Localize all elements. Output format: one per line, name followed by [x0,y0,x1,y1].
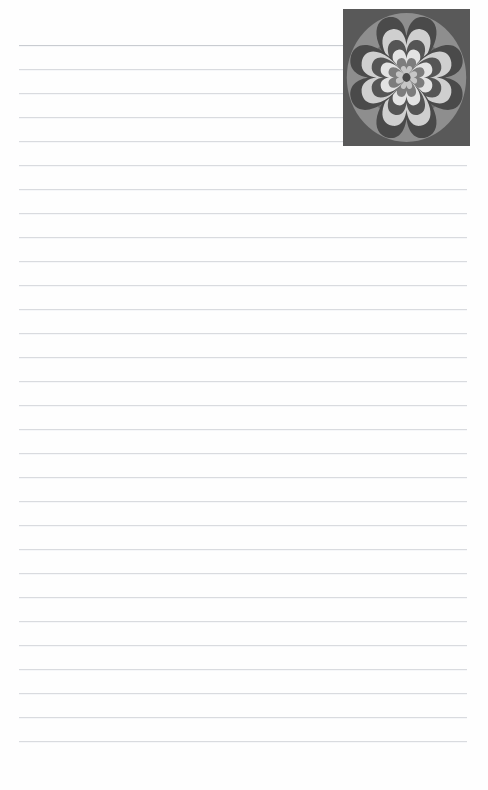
rule-line [19,213,467,214]
rule-line [19,453,467,454]
mandala-center [402,73,410,82]
rule-line [19,693,467,694]
rule-line [19,477,467,478]
rule-line [19,357,467,358]
rule-line [19,501,467,502]
rule-line [19,525,467,526]
heart-mandala-icon [343,9,470,146]
rule-line [19,333,467,334]
decorative-heart-mandala-tile [343,9,470,146]
rule-line [19,429,467,430]
rule-line [19,261,467,262]
rule-line [19,309,467,310]
rule-line [19,405,467,406]
rule-line [19,381,467,382]
rule-line [19,237,467,238]
rule-line [19,669,467,670]
rule-line [19,189,467,190]
rule-line [19,645,467,646]
rule-line [19,717,467,718]
rule-line [19,165,467,166]
note-page: Lined Note Page [0,0,488,790]
rule-line [19,285,467,286]
rule-line [19,573,467,574]
rule-line [19,549,467,550]
rule-line [19,597,467,598]
rule-line [19,741,467,742]
rule-line [19,621,467,622]
